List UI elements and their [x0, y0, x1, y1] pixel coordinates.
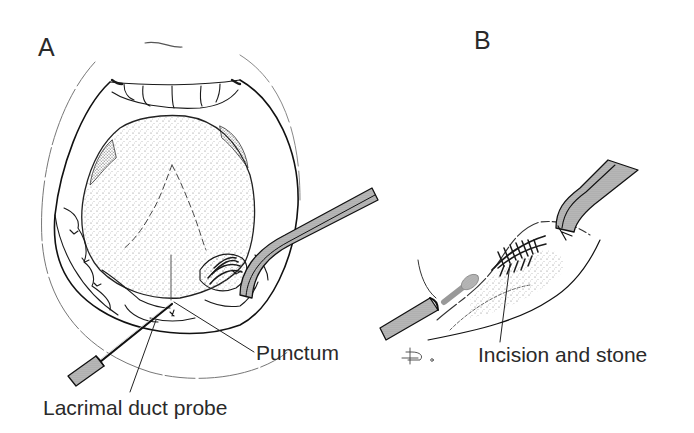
- probe-leader: [130, 320, 156, 392]
- lacrimal-probe-b: [380, 271, 482, 340]
- panel-a-label: A: [38, 35, 55, 60]
- surgical-illustration: [0, 0, 694, 433]
- artist-signature: [402, 348, 433, 364]
- callout-incision-and-stone: Incision and stone: [478, 344, 647, 365]
- forceps-b: [556, 160, 638, 240]
- callout-lacrimal-duct-probe: Lacrimal duct probe: [43, 397, 227, 418]
- callout-punctum: Punctum: [256, 342, 339, 363]
- punctum-leader: [174, 302, 254, 352]
- duct-stipple: [470, 250, 564, 318]
- panel-a-drawing: [42, 42, 378, 392]
- forceps-a: [240, 188, 378, 298]
- panel-b-label: B: [474, 28, 491, 53]
- panel-b-drawing: [380, 160, 638, 364]
- upper-teeth: [110, 80, 240, 108]
